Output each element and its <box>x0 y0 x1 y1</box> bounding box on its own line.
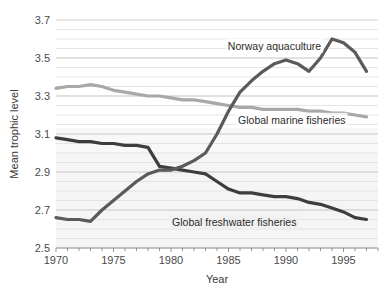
x-tick-label: 1980 <box>159 254 183 266</box>
annotation-global-freshwater-fisheries: Global freshwater fisheries <box>172 216 296 228</box>
annotation-norway-aquaculture: Norway aquaculture <box>228 40 322 52</box>
x-tick-label: 1970 <box>44 254 68 266</box>
x-axis-tick-labels: 1970 1975 1980 1985 1990 1995 <box>44 254 356 266</box>
x-tick-label: 1990 <box>274 254 298 266</box>
line-chart: 3.7 3.5 3.3 3.1 2.9 2.7 2.5 1970 1975 19… <box>0 0 392 296</box>
y-tick-label: 2.9 <box>35 166 50 178</box>
y-tick-label: 2.7 <box>35 204 50 216</box>
y-tick-label: 3.5 <box>35 52 50 64</box>
chart-figure: 3.7 3.5 3.3 3.1 2.9 2.7 2.5 1970 1975 19… <box>0 0 392 296</box>
annotation-global-marine-fisheries: Global marine fisheries <box>238 114 345 126</box>
y-tick-label: 3.3 <box>35 90 50 102</box>
x-tick-label: 1985 <box>216 254 240 266</box>
y-tick-label: 3.7 <box>35 14 50 26</box>
x-tick-label: 1975 <box>101 254 125 266</box>
x-tick-label: 1995 <box>331 254 355 266</box>
x-axis-minor-ticks <box>56 248 378 252</box>
plot-shade-band <box>56 154 378 248</box>
y-axis-tick-labels: 3.7 3.5 3.3 3.1 2.9 2.7 2.5 <box>35 14 50 254</box>
x-axis-title: Year <box>206 273 229 285</box>
y-tick-label: 3.1 <box>35 128 50 140</box>
y-axis-title: Mean trophic level <box>8 89 20 178</box>
y-tick-label: 2.5 <box>35 242 50 254</box>
